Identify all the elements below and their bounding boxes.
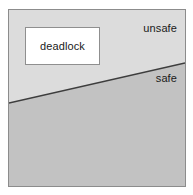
deadlock-region-label: deadlock [40,41,85,52]
safe-region-label: safe [156,73,177,84]
unsafe-region-label: unsafe [143,23,177,34]
state-space-plot-area: deadlock unsafe safe [8,9,186,187]
deadlock-region-box: deadlock [25,27,100,65]
state-diagram-figure: deadlock unsafe safe [0,0,193,195]
